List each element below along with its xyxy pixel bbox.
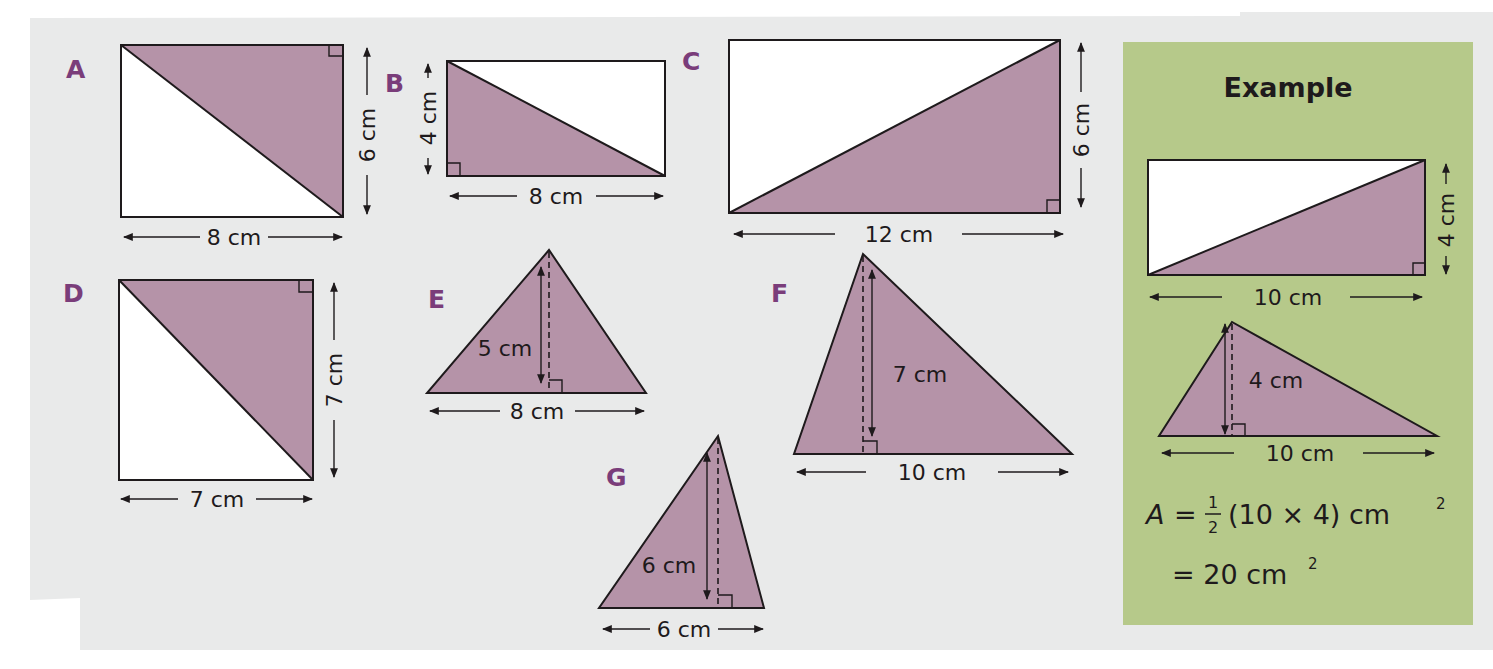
height-label: 5 cm bbox=[478, 336, 533, 361]
formula-lhs: A bbox=[1144, 499, 1164, 530]
formula-result: = 20 cm bbox=[1172, 559, 1287, 590]
shape-label: E bbox=[428, 285, 445, 314]
height-label: 4 cm bbox=[1249, 368, 1304, 393]
example-panel bbox=[1123, 42, 1473, 625]
shape-label: G bbox=[606, 463, 627, 492]
base-label: 10 cm bbox=[1266, 441, 1335, 466]
fraction-denominator: 2 bbox=[1208, 518, 1218, 537]
width-label: 10 cm bbox=[1254, 285, 1323, 310]
formula-expression: (10 × 4) cm bbox=[1228, 499, 1390, 530]
shape-label: A bbox=[66, 55, 86, 84]
height-label: 7 cm bbox=[893, 362, 948, 387]
formula-exponent: 2 bbox=[1436, 495, 1446, 513]
height-label: 4 cm bbox=[416, 91, 441, 146]
width-label: 7 cm bbox=[190, 487, 245, 512]
fraction-numerator: 1 bbox=[1208, 493, 1218, 512]
width-label: 8 cm bbox=[207, 225, 262, 250]
triangle-area-worksheet: A 8 cm 6 cm B 8 cm 4 cm C bbox=[0, 0, 1493, 669]
width-label: 12 cm bbox=[865, 222, 934, 247]
shape-label: C bbox=[682, 47, 700, 76]
height-label: 6 cm bbox=[355, 108, 380, 163]
height-label: 4 cm bbox=[1434, 193, 1459, 248]
height-label: 7 cm bbox=[322, 353, 347, 408]
height-label: 6 cm bbox=[1069, 103, 1094, 158]
base-label: 8 cm bbox=[510, 399, 565, 424]
width-label: 8 cm bbox=[529, 184, 584, 209]
height-label: 6 cm bbox=[642, 553, 697, 578]
shape-label: D bbox=[63, 279, 84, 308]
base-label: 10 cm bbox=[898, 460, 967, 485]
shape-label: F bbox=[771, 279, 788, 308]
formula-equals: = bbox=[1174, 499, 1197, 530]
result-exponent: 2 bbox=[1308, 555, 1318, 573]
shape-label: B bbox=[385, 69, 404, 98]
base-label: 6 cm bbox=[657, 617, 712, 642]
example-title: Example bbox=[1223, 72, 1352, 103]
